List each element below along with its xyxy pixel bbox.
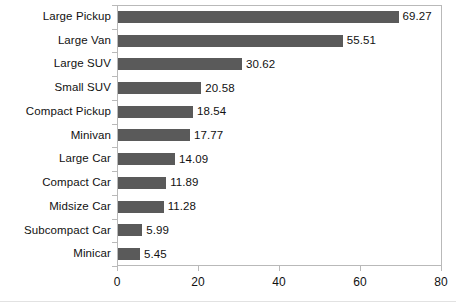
- category-label: Midsize Car: [0, 195, 111, 219]
- chart-row: Compact Car11.89: [0, 171, 456, 195]
- x-axis-tick: [360, 266, 361, 271]
- bar-container: 5.45: [118, 242, 456, 266]
- chart-row: Compact Pickup18.54: [0, 100, 456, 124]
- bar-value-label: 11.89: [170, 175, 198, 190]
- category-label: Large SUV: [0, 52, 111, 76]
- bar-container: 5.99: [118, 219, 456, 243]
- bar-container: 18.54: [118, 100, 456, 124]
- x-axis-tick: [441, 266, 442, 271]
- y-axis-tick: [112, 242, 117, 243]
- bar: [118, 11, 399, 23]
- category-label: Large Van: [0, 29, 111, 53]
- x-axis-tick-label: 20: [168, 274, 228, 290]
- bar: [118, 106, 193, 118]
- category-label: Subcompact Car: [0, 219, 111, 243]
- y-axis-tick: [112, 147, 117, 148]
- chart-rows: Large Pickup69.27Large Van55.51Large SUV…: [0, 5, 456, 266]
- bar: [118, 201, 164, 213]
- bar-container: 69.27: [118, 5, 456, 29]
- chart-row: Subcompact Car5.99: [0, 219, 456, 243]
- bar-chart: Large Pickup69.27Large Van55.51Large SUV…: [0, 0, 456, 305]
- bar-container: 11.89: [118, 171, 456, 195]
- category-label: Compact Pickup: [0, 100, 111, 124]
- bar: [118, 177, 166, 189]
- bar-container: 11.28: [118, 195, 456, 219]
- bar: [118, 129, 190, 141]
- bar-container: 30.62: [118, 52, 456, 76]
- chart-row: Large Van55.51: [0, 29, 456, 53]
- bar-value-label: 11.28: [168, 199, 196, 214]
- category-label: Minicar: [0, 242, 111, 266]
- bar-value-label: 17.77: [194, 128, 223, 143]
- bar: [118, 82, 201, 94]
- x-axis-tick-label: 0: [87, 274, 147, 290]
- y-axis-tick: [112, 124, 117, 125]
- scan-artifact-line: [0, 301, 456, 302]
- category-label: Large Car: [0, 147, 111, 171]
- bar: [118, 35, 343, 47]
- x-axis-tick: [279, 266, 280, 271]
- x-axis-tick-label: 80: [411, 274, 456, 290]
- bar-value-label: 5.45: [144, 247, 167, 262]
- bar-container: 20.58: [118, 76, 456, 100]
- category-label: Small SUV: [0, 76, 111, 100]
- x-axis-tick: [198, 266, 199, 271]
- y-axis-tick: [112, 52, 117, 53]
- bar-value-label: 5.99: [146, 223, 169, 238]
- bar-value-label: 18.54: [197, 104, 226, 119]
- x-axis-tick-label: 40: [249, 274, 309, 290]
- category-label: Compact Car: [0, 171, 111, 195]
- bar-value-label: 14.09: [179, 152, 208, 167]
- chart-row: Large SUV30.62: [0, 52, 456, 76]
- y-axis-tick: [112, 171, 117, 172]
- chart-row: Large Car14.09: [0, 147, 456, 171]
- bar-value-label: 69.27: [403, 9, 432, 24]
- chart-row: Small SUV20.58: [0, 76, 456, 100]
- bar-value-label: 30.62: [246, 57, 275, 72]
- bar-container: 17.77: [118, 124, 456, 148]
- bar: [118, 248, 140, 260]
- chart-row: Minivan17.77: [0, 124, 456, 148]
- y-axis-tick: [112, 5, 117, 6]
- x-axis-tick: [117, 266, 118, 271]
- category-label: Minivan: [0, 124, 111, 148]
- y-axis-tick: [112, 100, 117, 101]
- chart-row: Large Pickup69.27: [0, 5, 456, 29]
- bar-container: 14.09: [118, 147, 456, 171]
- bar: [118, 58, 242, 70]
- y-axis-tick: [112, 29, 117, 30]
- bar: [118, 153, 175, 165]
- y-axis-tick: [112, 76, 117, 77]
- bar-value-label: 55.51: [347, 33, 376, 48]
- chart-row: Midsize Car11.28: [0, 195, 456, 219]
- y-axis-tick: [112, 219, 117, 220]
- y-axis-tick: [112, 195, 117, 196]
- bar-value-label: 20.58: [205, 81, 234, 96]
- category-label: Large Pickup: [0, 5, 111, 29]
- bar: [118, 224, 142, 236]
- bar-container: 55.51: [118, 29, 456, 53]
- x-axis-tick-label: 60: [330, 274, 390, 290]
- chart-row: Minicar5.45: [0, 242, 456, 266]
